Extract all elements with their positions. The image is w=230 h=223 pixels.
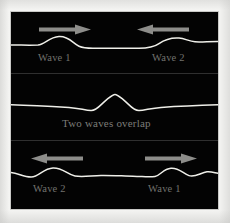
panel3-label-wave-2: Wave 2 — [33, 184, 66, 195]
panel-during-overlap: Two waves overlap — [11, 74, 218, 141]
wave-superposition-figure: Wave 1 Wave 2 Two waves overlap Wave 2 — [0, 0, 230, 223]
panel1-label-wave-1: Wave 1 — [38, 53, 71, 64]
panel2-label-overlap: Two waves overlap — [62, 118, 151, 129]
panels-frame: Wave 1 Wave 2 Two waves overlap Wave 2 — [11, 12, 218, 209]
panel-before-overlap: Wave 1 Wave 2 — [11, 12, 218, 74]
panel1-label-wave-2: Wave 2 — [152, 53, 185, 64]
panel3-label-wave-1: Wave 1 — [148, 184, 181, 195]
wave-curve-during-overlap — [11, 74, 218, 141]
wave-curve-before-overlap — [11, 12, 218, 74]
wave-curve-after-overlap — [11, 141, 218, 209]
panel-after-overlap: Wave 2 Wave 1 — [11, 141, 218, 209]
